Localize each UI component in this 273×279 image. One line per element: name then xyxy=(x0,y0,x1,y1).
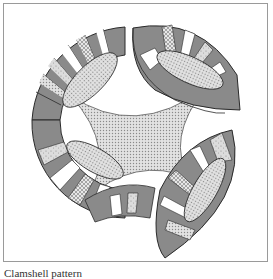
top-left-arc xyxy=(32,27,125,120)
top-right-arc xyxy=(133,25,240,113)
quilt-diagram xyxy=(0,0,273,264)
figure-caption: Clamshell pattern xyxy=(4,268,82,279)
